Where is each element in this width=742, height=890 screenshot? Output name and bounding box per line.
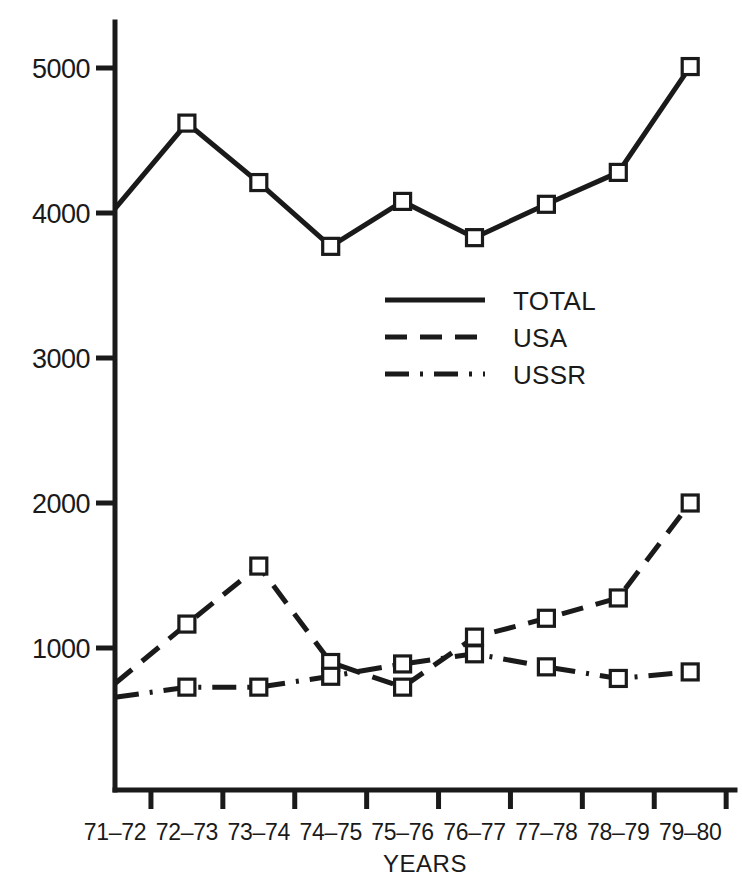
x-tick-label: 73–74 bbox=[228, 819, 291, 845]
legend-label-ussr: USSR bbox=[513, 360, 586, 390]
data-point-marker bbox=[610, 670, 626, 686]
data-point-marker bbox=[179, 616, 195, 632]
data-point-marker bbox=[467, 230, 483, 246]
data-point-marker bbox=[682, 59, 698, 75]
legend-label-usa: USA bbox=[513, 323, 568, 353]
x-tick-label: 74–75 bbox=[299, 819, 361, 845]
x-tick-label: 76–77 bbox=[443, 819, 505, 845]
y-tick-label: 1000 bbox=[32, 634, 90, 664]
data-point-marker bbox=[682, 495, 698, 511]
data-point-marker bbox=[538, 659, 554, 675]
x-axis-labels: 71–7272–7373–7474–7575–7676–7777–7878–79… bbox=[84, 819, 722, 845]
data-point-marker bbox=[251, 558, 267, 574]
data-point-marker bbox=[251, 679, 267, 695]
data-point-marker bbox=[395, 193, 411, 209]
x-tick-label: 78–79 bbox=[587, 819, 649, 845]
data-point-marker bbox=[467, 646, 483, 662]
data-point-marker bbox=[395, 679, 411, 695]
data-point-marker bbox=[395, 656, 411, 672]
x-axis-title: YEARS bbox=[383, 850, 467, 877]
y-tick-label: 3000 bbox=[32, 344, 90, 374]
x-tick-label: 77–78 bbox=[515, 819, 577, 845]
x-tick-label: 71–72 bbox=[84, 819, 146, 845]
data-point-marker bbox=[323, 238, 339, 254]
x-tick-label: 79–80 bbox=[659, 819, 721, 845]
data-point-marker bbox=[538, 196, 554, 212]
y-tick-label: 2000 bbox=[32, 489, 90, 519]
legend-label-total: TOTAL bbox=[513, 286, 596, 316]
data-point-marker bbox=[610, 590, 626, 606]
data-point-marker bbox=[610, 164, 626, 180]
data-point-marker bbox=[467, 629, 483, 645]
y-tick-label: 5000 bbox=[32, 54, 90, 84]
y-tick-label: 4000 bbox=[32, 199, 90, 229]
data-point-marker bbox=[251, 175, 267, 191]
line-chart-svg: 10002000300040005000 71–7272–7373–7474–7… bbox=[0, 0, 742, 890]
data-point-marker bbox=[682, 664, 698, 680]
x-tick-label: 75–76 bbox=[371, 819, 433, 845]
chart-figure: 10002000300040005000 71–7272–7373–7474–7… bbox=[0, 0, 742, 890]
data-point-marker bbox=[323, 668, 339, 684]
chart-background bbox=[0, 0, 742, 890]
data-point-marker bbox=[179, 115, 195, 131]
x-tick-label: 72–73 bbox=[156, 819, 218, 845]
data-point-marker bbox=[538, 610, 554, 626]
data-point-marker bbox=[179, 679, 195, 695]
